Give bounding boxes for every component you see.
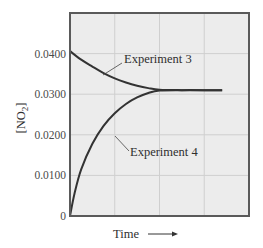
y-tick-label: 0.0100 <box>34 169 66 181</box>
y-tick-label: 0.0400 <box>34 48 66 60</box>
annotation-experiment-4: Experiment 4 <box>130 145 198 159</box>
y-label-close: ] <box>14 103 28 107</box>
y-tick-label: 0 <box>60 210 66 222</box>
y-tick-label: 0.0200 <box>34 129 66 141</box>
y-tick-label: 0.0300 <box>34 88 66 100</box>
x-axis-label: Time <box>113 227 139 241</box>
svg-text:[NO2]: [NO2] <box>14 103 30 134</box>
y-axis-label: [NO2] <box>14 103 30 134</box>
no2-concentration-chart: 00.01000.02000.03000.0400 Experiment 3 E… <box>0 0 263 248</box>
y-axis-ticks: 00.01000.02000.03000.0400 <box>34 48 66 222</box>
annotation-experiment-3: Experiment 3 <box>124 52 192 66</box>
y-label-base: [NO <box>14 111 28 133</box>
arrow-right-icon <box>148 232 178 237</box>
